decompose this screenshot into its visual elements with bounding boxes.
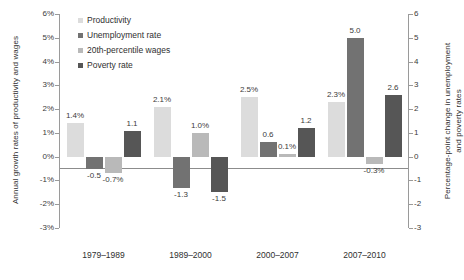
y-tick-mark-left: [55, 14, 59, 15]
bar-value-label: -1.5: [200, 195, 239, 203]
bar: [366, 157, 383, 164]
y-tick-mark-left: [55, 204, 59, 205]
bar-value-label: -0.3%: [355, 167, 394, 175]
y-tick-label-left: 2%: [24, 105, 54, 113]
bar: [154, 107, 171, 157]
bar: [385, 95, 402, 157]
left-axis-line: [59, 14, 60, 228]
y-tick-mark-right: [409, 85, 413, 86]
y-tick-label-right: -3: [414, 224, 436, 232]
bar-value-label: 1.0%: [181, 122, 220, 130]
legend-item[interactable]: Unemployment rate: [78, 28, 170, 43]
y-tick-label-right: 0: [414, 153, 436, 161]
legend-swatch-icon: [78, 63, 83, 68]
x-axis-category-label: 1979–1989: [60, 250, 147, 260]
bar-value-label: -0.7%: [94, 176, 133, 184]
bar: [67, 123, 84, 156]
y-tick-mark-right: [409, 228, 413, 229]
y-tick-label-left: 3%: [24, 81, 54, 89]
y-tick-mark-left: [55, 228, 59, 229]
x-axis-category-label: 2000–2007: [234, 250, 321, 260]
y-axis-right-ticks: 6543210-1-2-3: [414, 14, 436, 228]
y-tick-mark-right: [409, 180, 413, 181]
y-tick-label-left: -2%: [24, 200, 54, 208]
legend-label: Poverty rate: [87, 61, 133, 70]
y-tick-label-right: -2: [414, 200, 436, 208]
legend-swatch-icon: [78, 33, 83, 38]
legend-swatch-icon: [78, 18, 83, 23]
legend-item[interactable]: Productivity: [78, 13, 170, 28]
bar-value-label: 2.6: [374, 84, 413, 92]
y-tick-label-left: 5%: [24, 34, 54, 42]
y-axis-left-ticks: 6%5%4%3%2%1%0%-1%-2%-3%: [24, 14, 54, 228]
y-axis-left-title: Annual growth rates of productivity and …: [11, 10, 20, 230]
legend-swatch-icon: [78, 48, 83, 53]
bar: [173, 157, 190, 188]
y-tick-label-left: 0%: [24, 153, 54, 161]
y-tick-label-left: 4%: [24, 58, 54, 66]
legend-item[interactable]: Poverty rate: [78, 58, 170, 73]
y-tick-mark-right: [409, 38, 413, 39]
y-tick-mark-left: [55, 157, 59, 158]
bar: [211, 157, 228, 193]
bar-value-label: -1.3: [162, 191, 201, 199]
y-tick-label-left: 1%: [24, 129, 54, 137]
bar: [279, 154, 296, 156]
x-axis-category-label: 1989–2000: [147, 250, 234, 260]
bar-value-label: 2.5%: [230, 86, 269, 94]
bar: [124, 131, 141, 157]
y-tick-label-right: 2: [414, 105, 436, 113]
legend-label: Productivity: [87, 16, 131, 25]
right-axis-line: [408, 14, 409, 228]
y-tick-label-right: 5: [414, 34, 436, 42]
x-axis-category-label: 2007–2010: [321, 250, 408, 260]
y-tick-mark-right: [409, 157, 413, 158]
y-tick-mark-right: [409, 204, 413, 205]
y-tick-mark-left: [55, 85, 59, 86]
y-tick-mark-left: [55, 109, 59, 110]
bar-value-label: 2.1%: [143, 96, 182, 104]
bar: [328, 102, 345, 157]
y-tick-mark-right: [409, 109, 413, 110]
y-tick-label-left: -1%: [24, 176, 54, 184]
y-tick-label-right: 1: [414, 129, 436, 137]
bar-value-label: 0.6: [249, 131, 288, 139]
y-tick-label-right: 6: [414, 10, 436, 18]
legend-item[interactable]: 20th-percentile wages: [78, 43, 170, 58]
bar-value-label: 5.0: [336, 27, 375, 35]
y-tick-label-left: 6%: [24, 10, 54, 18]
y-tick-mark-right: [409, 133, 413, 134]
y-tick-mark-right: [409, 14, 413, 15]
chart-container: Annual growth rates of productivity and …: [0, 0, 464, 280]
bar: [192, 133, 209, 157]
y-tick-mark-left: [55, 62, 59, 63]
bar: [86, 157, 103, 169]
legend-label: Unemployment rate: [87, 31, 161, 40]
bar: [298, 128, 315, 157]
bar-value-label: 1.1: [113, 120, 152, 128]
y-tick-label-right: 4: [414, 58, 436, 66]
y-tick-mark-left: [55, 180, 59, 181]
chart-legend: ProductivityUnemployment rate20th-percen…: [78, 13, 170, 73]
bar: [241, 97, 258, 156]
y-tick-mark-left: [55, 38, 59, 39]
y-axis-right-title-line1: Percentage-point change in unemployment: [443, 10, 452, 232]
y-tick-label-right: -1: [414, 176, 436, 184]
y-tick-mark-left: [55, 133, 59, 134]
legend-label: 20th-percentile wages: [87, 46, 170, 55]
y-tick-mark-right: [409, 62, 413, 63]
bar-value-label: 1.2: [287, 117, 326, 125]
y-tick-label-right: 3: [414, 81, 436, 89]
y-axis-right-title-line2: and poverty rates: [454, 10, 463, 232]
y-tick-label-left: -3%: [24, 224, 54, 232]
bar: [347, 38, 364, 157]
bar: [105, 157, 122, 174]
bar-value-label: 1.4%: [56, 112, 95, 120]
